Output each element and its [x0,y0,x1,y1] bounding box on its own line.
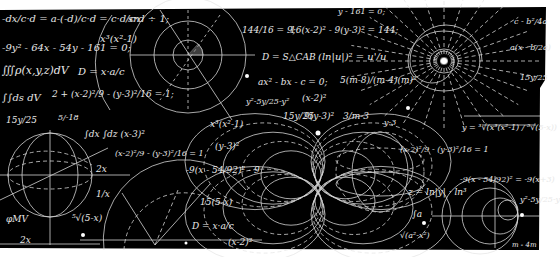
math-formula: √(a²-x²) [400,232,430,240]
math-formula: 2x [96,165,107,174]
math-formula: ∫∫ds dV [2,93,41,103]
math-formula: 16(x-2)² - 9(y-3)² = 144; [290,26,398,35]
math-formula: y = ³√(x³(x²-1) / ⁵√(5-x)) [462,124,557,132]
math-formula: y - 161 = 0; [338,8,385,16]
math-formula: z = ln|y| · ln³ [408,188,467,197]
math-formula: -dx/c·d = a-(-d)/c·d = c·d/c·d ÷ 1; [2,14,169,24]
math-formula: (ln|u|)² = u'/u [318,52,386,62]
math-formula: 3/m-3 [343,112,369,121]
math-formula: 9(y-3)² [304,112,334,121]
math-formula: 2x [20,236,31,245]
math-formula: 2 + (x-2)²/9 - (y-3)²/16 = 1; [52,90,174,99]
math-formula: (y-3)² [215,142,239,151]
math-formula: 144/16 = 9; [242,26,296,35]
math-formula: D = x·a/c [192,222,234,231]
math-formula: -9(x - 54/92)² = -9(x+3) [460,176,555,184]
math-formula: ∭ρ(x,y,z)dV [2,65,69,76]
math-formula: D = S△CAB [262,53,316,62]
math-formula: ∫dx ∫dz (x-3)² [84,130,145,139]
math-formula: 1/x [96,190,110,199]
math-formula: (x-2)² [302,94,326,103]
math-formula: D = x·a/c [78,67,125,77]
math-formula: (x-2)² [228,238,252,247]
math-formula: (x-2)²/9 - (y-3)²/16 = 1 [400,146,489,154]
math-formula: m - 4m [512,242,537,249]
math-formula: c - b²/4a [514,18,547,26]
math-formula: y-3 [384,119,396,127]
math-formula: 5/-18 [58,114,79,122]
math-formula: (x-2)²/9 - (y-3)²/16 = 1 [115,150,204,158]
math-formula: -9y² - 64x - 54y - 161 = 0; [2,43,131,53]
math-formula: 15y/25 [6,116,37,125]
math-formula: ax² - bx - c = 0; [258,78,327,87]
math-formula: y²-5y/25-y [520,196,560,204]
math-formula: x³(x²-1) [100,34,137,44]
math-formula: x³(x²-1) [210,120,243,129]
math-formula: a(x - b/2a) [510,44,551,52]
math-formula: 15y/25 [520,74,548,82]
math-formula: ∫a [412,210,422,219]
math-formula: sn [128,14,140,24]
math-formula: ⁵√(5-x) [72,214,102,223]
math-formula: 15(5-x) [200,198,232,207]
math-formula: y²-5y/25-y² [246,98,289,106]
math-formula: 5(m-8)/(m-4)(m)² [340,76,417,85]
math-formula: φMV [6,215,28,224]
math-formula: -9(x - 54/92)² - 9 [186,166,260,175]
